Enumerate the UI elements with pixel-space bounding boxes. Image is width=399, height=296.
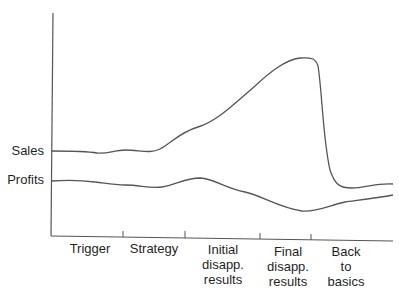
y-axis [51,13,53,236]
x-label-strategy: Strategy [121,241,187,256]
x-label-initial-disapp-results: Initial disapp. results [190,242,256,287]
x-label-back-to-basics: Back to basics [318,244,374,289]
x-label-trigger: Trigger [58,241,122,256]
profits-line [52,178,393,211]
x-label-final-disapp-results: Final disapp. results [255,244,321,289]
y-label-profits: Profits [0,172,44,187]
sales-line [52,58,393,188]
y-label-sales: Sales [0,143,44,158]
